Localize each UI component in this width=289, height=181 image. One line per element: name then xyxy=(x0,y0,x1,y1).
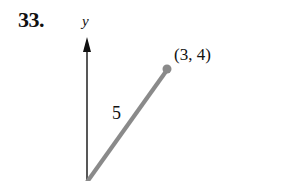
segment-length-label: 5 xyxy=(112,104,121,122)
point-label: (3, 4) xyxy=(174,46,211,63)
y-axis-arrow-icon xyxy=(83,37,91,52)
point-marker xyxy=(163,65,172,74)
y-axis-label: y xyxy=(82,14,89,29)
vector-segment xyxy=(87,70,167,181)
figure-canvas: 33. y (3, 4) 5 xyxy=(0,0,289,181)
problem-number: 33. xyxy=(18,9,44,31)
